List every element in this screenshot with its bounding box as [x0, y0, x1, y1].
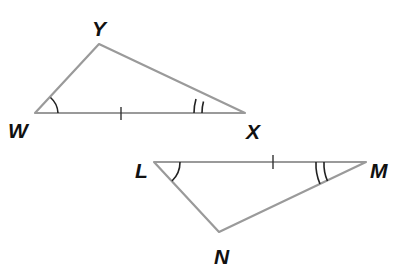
triangle-lmn-sides — [154, 162, 366, 232]
vertex-label-l: L — [135, 159, 148, 182]
triangle-lmn — [154, 155, 366, 232]
angle-l-arc — [172, 162, 180, 181]
angle-m-arc-outer — [316, 162, 320, 184]
vertex-label-n: N — [214, 245, 230, 268]
angle-x-arc-outer — [194, 99, 196, 113]
triangle-wxy — [35, 44, 245, 120]
angle-x-arc-inner — [202, 102, 204, 114]
angle-m-arc-inner — [324, 162, 328, 181]
vertex-label-x: X — [245, 120, 262, 143]
vertex-label-m: M — [370, 159, 388, 182]
congruent-triangles-diagram: Y W X L M N — [0, 0, 402, 271]
vertex-label-w: W — [8, 119, 30, 142]
vertex-label-y: Y — [92, 17, 108, 40]
angle-w-arc — [51, 98, 59, 114]
triangle-wxy-sides — [35, 44, 245, 113]
